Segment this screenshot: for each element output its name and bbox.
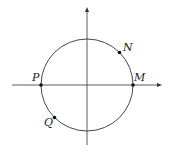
y-axis-arrow-icon — [85, 7, 89, 12]
label-Q: Q — [44, 116, 53, 129]
label-P: P — [31, 71, 40, 84]
unit-circle-diagram: M N P Q — [0, 0, 169, 156]
point-N — [118, 51, 122, 55]
label-M: M — [133, 71, 146, 84]
point-Q — [53, 116, 57, 120]
x-axis-arrow-icon — [157, 83, 162, 87]
point-P — [39, 83, 43, 87]
label-N: N — [122, 41, 133, 54]
